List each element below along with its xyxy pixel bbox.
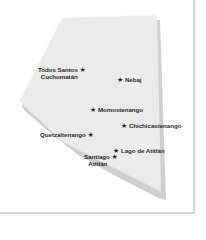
star-icon: ★ bbox=[121, 122, 127, 129]
place-name: Quetzaltenango bbox=[40, 131, 86, 138]
place-name-line2: Atitlán bbox=[88, 160, 107, 167]
place-name-line1: Santiago bbox=[84, 153, 110, 160]
place-name: Lago de Atitlán bbox=[121, 147, 165, 154]
star-icon: ★ bbox=[90, 106, 96, 113]
place-todos-santos[interactable]: Todos Santos ★ Cuchumatán bbox=[38, 66, 86, 80]
place-santiago-atitlan[interactable]: Santiago ★ Atitlán bbox=[84, 153, 118, 167]
place-chichicastenango[interactable]: ★ Chichicastenango bbox=[121, 122, 181, 129]
star-icon: ★ bbox=[80, 66, 86, 73]
star-icon: ★ bbox=[87, 131, 93, 138]
place-name: Nebaj bbox=[125, 76, 142, 83]
place-momostenango[interactable]: ★ Momostenango bbox=[90, 106, 143, 113]
place-lago-de-atitlan[interactable]: ★ Lago de Atitlán bbox=[113, 147, 165, 154]
place-quetzaltenango[interactable]: Quetzaltenango ★ bbox=[40, 131, 94, 138]
star-icon: ★ bbox=[111, 153, 117, 160]
place-name: Chichicastenango bbox=[129, 122, 182, 129]
place-nebaj[interactable]: ★ Nebaj bbox=[117, 76, 142, 83]
place-name-line1: Todos Santos bbox=[38, 66, 78, 73]
place-name-line2: Cuchumatán bbox=[41, 73, 78, 80]
place-name: Momostenango bbox=[98, 106, 143, 113]
star-icon: ★ bbox=[117, 76, 123, 83]
